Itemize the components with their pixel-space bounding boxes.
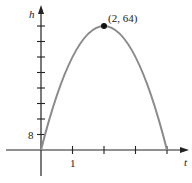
x-axis-label: t	[184, 156, 188, 168]
parabola-curve	[41, 26, 167, 150]
x-axis-arrow-icon	[180, 147, 189, 153]
vertex-label: (2, 64)	[108, 12, 138, 25]
chart-container: h t 8 1 (2, 64)	[0, 0, 192, 183]
parabola-chart: h t 8 1 (2, 64)	[0, 0, 192, 183]
x-tick-label-1: 1	[70, 157, 76, 169]
y-axis-label: h	[29, 8, 35, 20]
vertex-point	[101, 23, 107, 29]
y-axis-arrow-icon	[38, 5, 44, 14]
y-tick-label-8: 8	[28, 129, 34, 141]
